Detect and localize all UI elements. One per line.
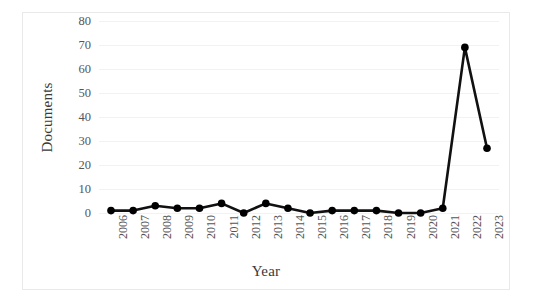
y-tick-label-60: 60 [61, 63, 91, 76]
data-point-2013 [262, 200, 270, 208]
x-tick-label-2023: 2023 [493, 215, 505, 259]
x-tick-label-2016: 2016 [338, 215, 350, 259]
chart-container: Documents 01020304050607080 200620072008… [22, 12, 510, 290]
data-point-2009 [174, 204, 182, 212]
data-point-2017 [350, 207, 358, 215]
data-point-2021 [439, 204, 447, 212]
x-tick-label-2012: 2012 [250, 215, 262, 259]
y-tick-label-0: 0 [61, 207, 91, 220]
plot-area [99, 21, 499, 213]
x-tick-label-2017: 2017 [360, 215, 372, 259]
x-axis-title: Year [23, 263, 509, 280]
y-tick-label-10: 10 [61, 183, 91, 196]
series-markers-documents [107, 44, 491, 217]
x-tick-label-2014: 2014 [294, 215, 306, 259]
x-tick-label-2021: 2021 [449, 215, 461, 259]
x-tick-label-2018: 2018 [382, 215, 394, 259]
y-tick-label-50: 50 [61, 87, 91, 100]
data-point-2007 [129, 207, 137, 215]
line-series-svg [99, 21, 499, 213]
data-point-2018 [373, 207, 381, 215]
x-tick-label-2019: 2019 [405, 215, 417, 259]
y-tick-label-40: 40 [61, 111, 91, 124]
data-point-2010 [196, 204, 204, 212]
x-tick-label-2008: 2008 [161, 215, 173, 259]
y-tick-label-80: 80 [61, 15, 91, 28]
y-tick-label-70: 70 [61, 39, 91, 52]
x-tick-label-2009: 2009 [183, 215, 195, 259]
data-point-2008 [151, 202, 159, 210]
chart-inner: Documents 01020304050607080 200620072008… [23, 13, 509, 289]
y-tick-label-20: 20 [61, 159, 91, 172]
x-tick-label-2013: 2013 [272, 215, 284, 259]
data-point-2014 [284, 204, 292, 212]
gridline-0 [99, 213, 499, 214]
data-point-2011 [218, 200, 226, 208]
x-tick-label-2020: 2020 [427, 215, 439, 259]
data-point-2022 [461, 44, 469, 52]
data-point-2016 [328, 207, 336, 215]
x-tick-label-2022: 2022 [471, 215, 483, 259]
x-tick-label-2011: 2011 [228, 215, 240, 259]
x-axis-tick-labels: 2006200720082009201020112012201320142015… [99, 215, 499, 261]
x-tick-label-2006: 2006 [117, 215, 129, 259]
x-tick-label-2010: 2010 [205, 215, 217, 259]
y-axis-title: Documents [39, 58, 56, 178]
x-tick-label-2007: 2007 [139, 215, 151, 259]
data-point-2006 [107, 207, 115, 215]
y-axis-tick-labels: 01020304050607080 [59, 13, 91, 289]
x-tick-label-2015: 2015 [316, 215, 328, 259]
y-tick-label-30: 30 [61, 135, 91, 148]
series-line-documents [111, 47, 487, 213]
data-point-2023 [483, 144, 491, 152]
